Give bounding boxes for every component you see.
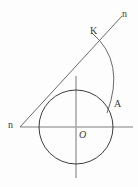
label-center-o: O xyxy=(79,130,86,140)
label-point-a: A xyxy=(114,99,121,109)
geometry-canvas xyxy=(0,0,138,187)
geometry-figure: n K A n O xyxy=(0,0,138,187)
label-n-top: n xyxy=(122,9,127,19)
tangent-line-n xyxy=(20,16,122,127)
label-point-k: K xyxy=(90,26,97,36)
label-n-left: n xyxy=(8,120,13,130)
